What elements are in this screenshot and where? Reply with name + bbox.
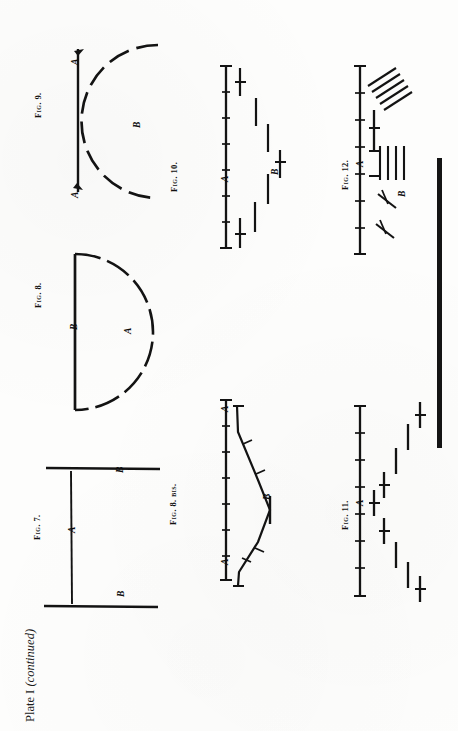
fig-10-drawing — [192, 52, 312, 277]
fig-11-dash-trace — [369, 402, 426, 602]
fig-8-bis-caption: Fig. 8. bis. — [169, 483, 178, 525]
figure-fig-10 — [192, 52, 312, 277]
plate-edge-rule — [437, 158, 442, 448]
fig-7-drawing — [40, 440, 175, 635]
figure-fig-8-bis — [192, 382, 312, 612]
fig-8-bis-trace-ticks — [242, 440, 265, 562]
figure-fig-11 — [334, 390, 452, 620]
fig-9-label-A-bottom: A — [71, 192, 81, 198]
fig-7-caption: Fig. 7. — [33, 514, 42, 540]
fig-11-caption: Fig. 11. — [341, 500, 350, 530]
fig-12-label-A: A — [356, 161, 366, 167]
fig-12-lower-dashes — [376, 190, 396, 238]
fig-12-caption: Fig. 12. — [341, 160, 350, 190]
fig-7-rule-lower — [44, 606, 158, 607]
fig-10-label-A: A — [221, 176, 231, 182]
fig-8-label-B: B — [70, 324, 80, 330]
fig-11-label-A: A — [356, 500, 366, 506]
fig-9-arc — [82, 45, 159, 198]
fig-7-label-B-upper: B — [117, 591, 127, 597]
plate-title-note: (continued) — [23, 629, 37, 687]
fig-9-caption: Fig. 9. — [34, 92, 43, 118]
fig-12-drawing — [334, 48, 452, 278]
fig-8-label-A: A — [124, 328, 134, 334]
fig-7-label-B-lower: B — [116, 467, 126, 473]
fig-12-hatch-group-lower — [380, 146, 404, 180]
fig-10-caption: Fig. 10. — [170, 162, 179, 192]
plate-title: Plate I (continued) — [24, 629, 37, 722]
fig-8-arc — [75, 254, 153, 410]
fig-7-rule-upper — [46, 468, 160, 469]
plate-scan-page: Plate I (continued) Fig. 7. A B B Fig. 8… — [0, 0, 458, 731]
fig-10-dash-trace — [235, 68, 286, 248]
fig-8-bis-drawing — [192, 382, 312, 612]
fig-8-caption: Fig. 8. — [34, 282, 43, 308]
fig-10-label-B: B — [271, 169, 281, 175]
fig-12-hatch-group-upper — [368, 68, 412, 110]
fig-9-label-B: B — [133, 122, 143, 128]
fig-9-label-A-top: A — [71, 59, 81, 65]
fig-8-bis-label-A-top: A — [221, 406, 231, 412]
fig-7-label-A: A — [68, 527, 78, 533]
fig-7-center-line — [71, 471, 72, 604]
fig-8-bis-label-A-bottom: A — [221, 559, 231, 565]
fig-12-mid-trace — [369, 110, 380, 176]
fig-11-drawing — [334, 390, 452, 620]
fig-8-bis-label-B: B — [263, 494, 273, 500]
plate-title-main: Plate I — [23, 690, 37, 722]
fig-12-label-B: B — [398, 191, 408, 197]
figure-fig-7 — [40, 440, 175, 635]
figure-fig-12 — [334, 48, 452, 278]
